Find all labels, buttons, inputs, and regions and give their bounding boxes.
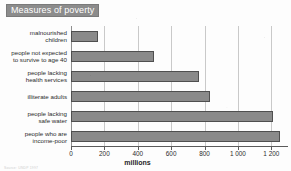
x-tick-label: 200 [99, 150, 110, 157]
category-label: people not expected to survive to age 40 [1, 49, 67, 63]
bar-row [71, 87, 210, 107]
x-axis-label-text: millions [124, 159, 150, 166]
plot-area [71, 26, 288, 147]
bar-row [71, 66, 199, 86]
x-tick-label: 400 [132, 150, 143, 157]
bar [71, 111, 273, 122]
category-label: people lacking safe water [1, 110, 67, 124]
x-tick-label: 0 [69, 150, 73, 157]
x-axis-label: millions [0, 159, 291, 166]
bar [71, 91, 210, 102]
category-label: malnourished children [1, 29, 67, 43]
x-tick-label: 1 200 [263, 150, 279, 157]
x-tick-label: 1 000 [230, 150, 246, 157]
category-label: people lacking health services [1, 69, 67, 83]
bar-row [71, 127, 280, 147]
bar [71, 51, 154, 62]
category-label: people who are income-poor [1, 130, 67, 144]
bar [71, 31, 98, 42]
source-note: Source: UNDP 1997 [4, 166, 38, 170]
bar [71, 131, 280, 142]
bar [71, 71, 199, 82]
chart-title: Measures of poverty [11, 6, 94, 15]
bar-row [71, 107, 273, 127]
bar-row [71, 46, 154, 66]
x-tick-label: 600 [166, 150, 177, 157]
chart-title-banner: Measures of poverty [6, 4, 99, 17]
bar-row [71, 26, 98, 46]
x-tick-label: 800 [199, 150, 210, 157]
category-label: illiterate adults [1, 93, 67, 100]
poverty-bar-chart-figure: Measures of poverty malnourished childre… [0, 0, 291, 171]
